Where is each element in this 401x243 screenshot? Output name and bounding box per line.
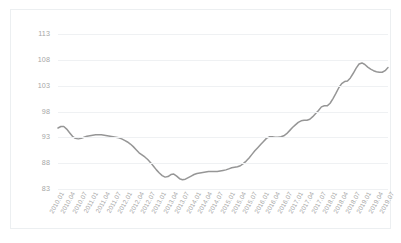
x-axis-labels: 2010.012010.042010.072011.012011.042011.… — [58, 191, 388, 237]
gridline — [58, 86, 388, 87]
gridline — [58, 137, 388, 138]
y-axis-tick-label: 93 — [26, 133, 50, 140]
y-axis-tick-label: 108 — [26, 56, 50, 63]
y-axis-tick-label: 83 — [26, 185, 50, 192]
gridline — [58, 34, 388, 35]
gridline — [58, 163, 388, 164]
plot-area: 83889398103108113 — [58, 34, 388, 189]
y-axis-tick-label: 88 — [26, 159, 50, 166]
y-axis-tick-label: 98 — [26, 108, 50, 115]
y-axis-tick-label: 113 — [26, 30, 50, 37]
gridline — [58, 112, 388, 113]
gridline — [58, 60, 388, 61]
chart-frame: 83889398103108113 2010.012010.042010.072… — [10, 9, 391, 229]
y-axis-tick-label: 103 — [26, 82, 50, 89]
gridline — [58, 189, 388, 190]
